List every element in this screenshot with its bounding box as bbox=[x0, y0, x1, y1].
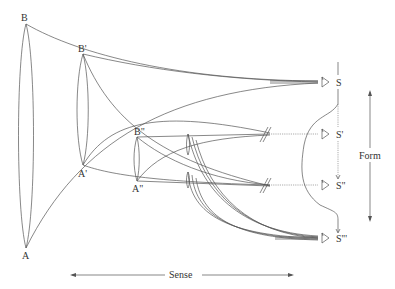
label-a1: A' bbox=[78, 168, 87, 179]
ellipse-a2b2 bbox=[134, 137, 139, 181]
form-s-curve bbox=[302, 104, 338, 220]
curve-a2-s1 bbox=[137, 135, 270, 181]
label-a: A bbox=[22, 250, 30, 261]
sense-arrow-left-head bbox=[70, 273, 76, 277]
label-b1: B' bbox=[78, 43, 87, 54]
label-b2: B" bbox=[134, 126, 145, 137]
eye-icon-s3 bbox=[322, 233, 329, 243]
sense-label: Sense bbox=[169, 269, 193, 280]
label-s1: S' bbox=[336, 129, 344, 140]
ellipse-ab bbox=[19, 24, 34, 248]
curve-a1-s2 bbox=[83, 165, 270, 185]
curve-b1-s bbox=[83, 54, 318, 82]
label-s2: S" bbox=[336, 180, 346, 191]
ellipse-a1b1 bbox=[77, 54, 88, 165]
fan-curve-2 bbox=[192, 137, 318, 237]
form-label: Form bbox=[359, 150, 381, 161]
form-arrow-down-head bbox=[368, 216, 372, 222]
fan-curve-3 bbox=[196, 140, 318, 238]
fan-curve-6 bbox=[196, 178, 318, 240]
curve-a1-up bbox=[83, 121, 270, 165]
sense-arrow-right-head bbox=[288, 273, 294, 277]
form-arrow-up-head bbox=[368, 90, 372, 96]
label-s: S bbox=[336, 77, 342, 88]
label-b: B bbox=[21, 12, 28, 23]
eye-icon-s bbox=[322, 77, 329, 87]
curve-b2-s1 bbox=[137, 134, 270, 137]
curve-a2-s2 bbox=[137, 181, 270, 186]
eye-icon-s2 bbox=[322, 180, 329, 190]
curve-b1-down bbox=[83, 54, 270, 186]
curve-b2-s2 bbox=[137, 137, 270, 185]
eye-icon-s1 bbox=[322, 129, 329, 139]
sense-form-diagram: B B' B" A A' A" S S' S" S''' Form Sense bbox=[0, 0, 395, 289]
label-a2: A" bbox=[132, 183, 143, 194]
curve-b-s bbox=[26, 24, 318, 81]
label-s3: S''' bbox=[336, 233, 347, 244]
curve-a-s bbox=[26, 83, 318, 248]
